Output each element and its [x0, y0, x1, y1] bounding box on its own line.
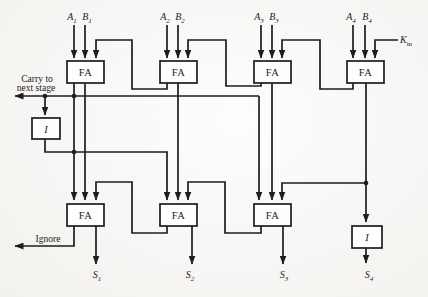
junction-dot-bus-fa1 [72, 94, 77, 99]
ignore-label: Ignore [35, 233, 60, 244]
label-s3: S3 [280, 269, 289, 283]
wire-carry-fa3-to-fa2 [188, 40, 261, 86]
fa1-label: FA [79, 67, 93, 78]
label-s4: S4 [365, 269, 374, 283]
wire-sum4-tap-to-fa3-bottom [282, 183, 366, 200]
junction-dot-bus-inverter [43, 94, 48, 99]
circuit-diagram: FA FA FA FA FA FA FA I I A1 B1 A2 B2 A3 … [0, 0, 428, 297]
wire-inverter-left-output [45, 139, 167, 200]
wire-carry-fa2b-to-fa1b [96, 182, 167, 233]
label-b1: B1 [82, 11, 92, 25]
fa3-bottom-label: FA [266, 210, 280, 221]
junction-dot-inverter-line [72, 150, 77, 155]
fa2-label: FA [172, 67, 186, 78]
inverter-right-label: I [364, 232, 369, 243]
inverter-left-label: I [43, 124, 48, 135]
label-a1: A1 [66, 11, 77, 25]
fa4-label: FA [359, 67, 373, 78]
circuit-figure: FA FA FA FA FA FA FA I I A1 B1 A2 B2 A3 … [0, 0, 428, 297]
label-kin: Kin [399, 34, 413, 48]
label-a3: A3 [253, 11, 264, 25]
carry-note-line2: next stage [17, 82, 56, 93]
wire-carry-fa4-to-fa3 [282, 40, 353, 89]
label-a2: A2 [159, 11, 170, 25]
label-b3: B3 [269, 11, 279, 25]
wire-carry-fa2-to-fa1 [96, 40, 167, 89]
wire-carry-in-kin [375, 40, 398, 58]
label-b2: B2 [175, 11, 185, 25]
junction-dot-sum4-tap [364, 181, 369, 186]
label-s2: S2 [186, 269, 195, 283]
label-a4: A4 [345, 11, 356, 25]
fa3-label: FA [266, 67, 280, 78]
label-b4: B4 [362, 11, 372, 25]
wire-carry-fa3b-to-fa2b [188, 182, 261, 233]
fa2-bottom-label: FA [172, 210, 186, 221]
fa1-bottom-label: FA [79, 210, 93, 221]
label-s1: S1 [93, 269, 102, 283]
